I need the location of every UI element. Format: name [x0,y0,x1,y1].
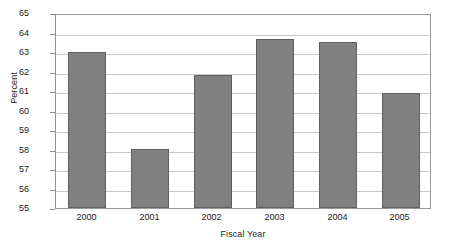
y-axis-tick-label: 55 [5,204,29,213]
bar-2004 [319,42,357,208]
y-axis-tick-label: 63 [5,48,29,57]
bar-series [56,15,430,208]
x-axis-tick-label: 2001 [118,212,181,223]
bar-2000 [68,52,106,208]
bar-2003 [256,39,294,208]
y-axis-tick-label: 58 [5,146,29,155]
plot-area [55,14,431,209]
bar-chart: Percent 6564636261605958575655 200020012… [0,0,454,248]
bar-2002 [194,75,232,208]
y-axis-tick-mark [50,209,55,210]
y-axis-tick-label: 62 [5,68,29,77]
x-axis-tick-label: 2002 [180,212,243,223]
y-axis-tick-labels: 6564636261605958575655 [0,0,55,248]
bar-2001 [131,149,169,208]
y-axis-tick-label: 61 [5,87,29,96]
y-axis-tick-label: 60 [5,107,29,116]
y-axis-tick-label: 56 [5,185,29,194]
y-axis-tick-label: 57 [5,165,29,174]
y-axis-tick-label: 59 [5,126,29,135]
x-axis-tick-label: 2000 [55,212,118,223]
x-axis-tick-label: 2004 [306,212,369,223]
bar-2005 [382,93,420,208]
x-axis-tick-labels: 200020012002200320042005 [55,212,431,226]
x-axis-tick-label: 2005 [368,212,431,223]
x-axis-title: Fiscal Year [55,229,431,239]
y-axis-tick-label: 65 [5,9,29,18]
x-axis-tick-label: 2003 [243,212,306,223]
y-axis-tick-label: 64 [5,29,29,38]
